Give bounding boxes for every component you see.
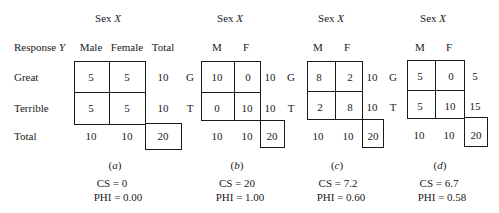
sex-x-header-a: Sex X [95,13,121,24]
grand-total: 20 [368,131,379,142]
cell: 10 [212,72,223,83]
col-total: 10 [86,131,97,142]
divider [407,90,465,91]
row-label-g: G [186,72,194,83]
col-total: 10 [444,130,455,141]
sex-x-header-c: Sex X [318,13,344,24]
row-total: 5 [472,71,478,82]
sex-x-header-d: Sex X [420,13,446,24]
row-total: 15 [470,101,481,112]
divider [74,92,146,93]
caption-c: (c) [331,160,343,171]
cs-value: CS = 6.7 [420,178,459,189]
row-total: 10 [158,103,169,114]
caption-b: (b) [231,160,244,171]
col-header-male: Male [80,42,103,53]
phi-value: PHI = 0.60 [317,192,366,203]
col-header-m: M [212,42,222,53]
col-total: 10 [313,131,324,142]
col-header-m: M [313,42,323,53]
cell: 10 [242,103,253,114]
response-y-label: Response Y [14,42,65,53]
cell: 2 [317,102,323,113]
row-label-great: Great [14,72,38,83]
cs-value: CS = 0 [97,178,128,189]
row-total: 10 [265,72,276,83]
cell: 5 [417,101,423,112]
col-header-female: Female [111,42,143,53]
cs-value: CS = 7.2 [319,178,358,189]
col-header-f: F [344,42,350,53]
divider [234,61,235,121]
cell: 8 [347,102,353,113]
cell-box-a [74,61,146,125]
grand-total: 20 [267,131,278,142]
cell: 8 [316,72,322,83]
row-label-terrible: Terrible [14,103,49,114]
row-label-g: G [389,72,397,83]
grand-total: 20 [471,130,482,141]
grand-total: 20 [158,131,169,142]
col-header-f: F [243,42,249,53]
caption-a: (a) [109,160,122,171]
phi-value: PHI = 1.00 [216,192,265,203]
col-header-f: F [446,42,452,53]
cell: 0 [214,103,220,114]
cell: 0 [448,71,454,82]
phi-value: PHI = 0.58 [418,192,467,203]
row-total: 10 [158,72,169,83]
cell: 5 [417,71,423,82]
row-total: 10 [265,103,276,114]
col-total: 10 [414,130,425,141]
divider [201,92,261,93]
cell: 5 [124,103,130,114]
sex-x-header-b: Sex X [217,13,243,24]
row-total: 10 [367,72,378,83]
cs-value: CS = 20 [219,178,255,189]
col-total: 10 [212,131,223,142]
row-label-t: T [288,103,295,114]
row-label-total: Total [14,131,36,142]
caption-d: (d) [434,160,447,171]
row-label-t: T [390,102,397,113]
cell: 5 [88,103,94,114]
phi-value: PHI = 0.00 [94,192,143,203]
cell: 2 [347,72,353,83]
cell: 5 [124,72,130,83]
col-total: 10 [122,131,133,142]
cell: 0 [245,72,251,83]
row-label-t: T [187,103,194,114]
row-total: 10 [367,102,378,113]
col-header-total: Total [152,42,174,53]
col-total: 10 [343,131,354,142]
col-header-m: M [415,42,425,53]
cell: 5 [88,72,94,83]
divider [109,61,110,125]
row-label-g: G [287,72,295,83]
divider [307,91,363,92]
cell: 10 [445,101,456,112]
col-total: 10 [242,131,253,142]
